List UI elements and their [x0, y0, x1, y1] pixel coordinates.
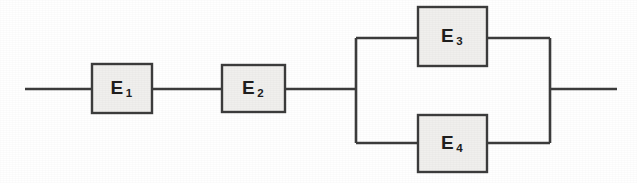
reliability-block-diagram: E 1 E 2 E 3 E 4 [0, 0, 637, 183]
block-e1-label: E [111, 77, 124, 98]
block-e4: E 4 [418, 115, 487, 172]
block-e2: E 2 [222, 65, 285, 112]
block-e1: E 1 [92, 64, 152, 113]
block-e2-subscript: 2 [257, 87, 263, 99]
block-e4-subscript: 4 [456, 142, 463, 154]
block-e4-label: E [441, 132, 454, 153]
block-e3: E 3 [418, 7, 487, 66]
block-e1-subscript: 1 [126, 87, 133, 99]
diagram-canvas: E 1 E 2 E 3 E 4 [0, 0, 637, 183]
block-e3-label: E [441, 25, 454, 46]
block-e2-label: E [242, 77, 255, 98]
block-e3-subscript: 3 [456, 35, 462, 47]
